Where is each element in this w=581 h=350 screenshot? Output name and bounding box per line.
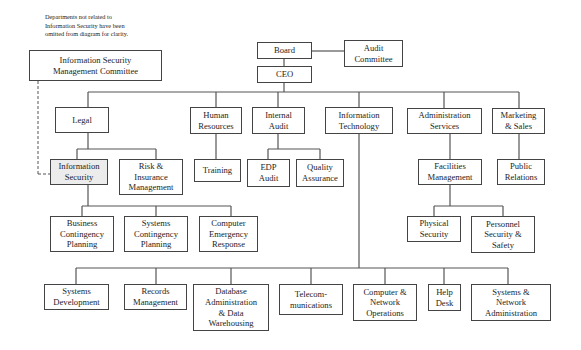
note-line: Departments not related to — [45, 13, 215, 22]
node-administration-services[interactable]: Administration Services — [407, 108, 482, 134]
node-label: Planning — [67, 239, 98, 250]
node-label: Response — [212, 239, 245, 250]
node-database-administration[interactable]: Database Administration & Data Warehousi… — [193, 284, 269, 331]
node-audit-committee[interactable]: Audit Committee — [344, 40, 403, 67]
node-label: Services — [430, 121, 459, 132]
node-quality-assurance[interactable]: Quality Assurance — [296, 159, 344, 187]
node-label: Information — [338, 110, 379, 121]
node-label: Quality — [307, 162, 333, 173]
node-label: Telecom- — [295, 289, 327, 300]
node-label: Management — [428, 172, 473, 183]
node-label: Personnel — [486, 219, 520, 230]
node-facilities-management[interactable]: Facilities Management — [418, 159, 482, 185]
node-label: Human — [203, 110, 228, 121]
note-line: omitted from diagram for clarity. — [45, 30, 215, 39]
node-human-resources[interactable]: Human Resources — [190, 107, 242, 134]
node-internal-audit[interactable]: Internal Audit — [252, 107, 305, 134]
node-label: Contingency — [134, 229, 178, 240]
node-label: Administration — [418, 110, 470, 121]
node-label: Network — [496, 297, 526, 308]
node-label: Audit — [364, 43, 384, 54]
node-label: CEO — [276, 69, 293, 80]
node-label: Resources — [198, 121, 233, 132]
node-label: Marketing — [501, 110, 537, 121]
node-edp-audit[interactable]: EDP Audit — [247, 159, 290, 187]
node-label: Contingency — [60, 229, 104, 240]
node-systems-development[interactable]: Systems Development — [44, 284, 109, 310]
node-label: Emergency — [209, 229, 248, 240]
node-help-desk[interactable]: Help Desk — [428, 284, 461, 311]
node-label: Physical — [419, 218, 448, 229]
node-label: Public — [510, 161, 532, 172]
node-records-management[interactable]: Records Management — [124, 284, 187, 310]
node-label: Management — [129, 182, 174, 193]
node-label: Operations — [366, 308, 404, 319]
node-label: Audit — [259, 173, 279, 184]
node-label: Administration — [485, 308, 537, 319]
node-label: Risk & — [139, 161, 164, 172]
node-systems-network-administration[interactable]: Systems & Network Administration — [471, 284, 551, 321]
node-label: Management Committee — [53, 66, 138, 77]
node-label: & Sales — [505, 121, 532, 132]
node-label: Management — [133, 297, 178, 308]
node-label: Security — [65, 172, 94, 183]
node-label: Board — [274, 45, 295, 56]
node-systems-contingency-planning[interactable]: Systems Contingency Planning — [124, 216, 188, 252]
node-label: Planning — [141, 239, 172, 250]
node-label: Network — [370, 297, 400, 308]
node-label: Systems — [142, 218, 171, 229]
node-label: Safety — [492, 240, 514, 251]
node-personnel-security-safety[interactable]: Personnel Security & Safety — [471, 216, 535, 253]
node-label: Committee — [354, 54, 392, 65]
node-label: Assurance — [302, 173, 338, 184]
node-label: Training — [203, 165, 232, 176]
node-label: Desk — [436, 298, 454, 309]
node-label: Business — [67, 218, 98, 229]
node-telecommunications[interactable]: Telecom- munications — [279, 284, 343, 315]
node-legal[interactable]: Legal — [55, 107, 109, 133]
node-label: Security — [420, 229, 449, 240]
node-label: Computer & — [363, 287, 406, 298]
node-label: EDP — [260, 162, 276, 173]
node-training[interactable]: Training — [194, 159, 241, 182]
node-label: Information — [58, 161, 99, 172]
diagram-note: Departments not related to Information S… — [45, 13, 215, 39]
node-label: Warehousing — [208, 318, 253, 329]
node-risk-insurance[interactable]: Risk & Insurance Management — [119, 159, 183, 195]
node-label: Technology — [339, 121, 379, 132]
node-information-security[interactable]: Information Security — [50, 159, 108, 185]
node-computer-emergency-response[interactable]: Computer Emergency Response — [199, 216, 258, 252]
node-label: Insurance — [134, 172, 167, 183]
node-label: & Data — [218, 308, 243, 319]
node-information-technology[interactable]: Information Technology — [325, 107, 393, 134]
node-label: Development — [53, 297, 99, 308]
node-ismc[interactable]: Information Security Management Committe… — [29, 50, 162, 81]
node-business-contingency-planning[interactable]: Business Contingency Planning — [50, 216, 114, 252]
node-label: Database — [215, 286, 247, 297]
node-physical-security[interactable]: Physical Security — [407, 216, 461, 242]
node-label: Internal — [265, 110, 292, 121]
node-label: Relations — [505, 172, 537, 183]
node-board[interactable]: Board — [257, 42, 312, 59]
node-label: Audit — [269, 121, 289, 132]
node-label: munications — [290, 300, 332, 311]
node-label: Systems & — [492, 287, 529, 298]
node-label: Information Security — [60, 55, 132, 66]
node-label: Facilities — [434, 161, 466, 172]
node-ceo[interactable]: CEO — [257, 66, 312, 83]
node-computer-network-operations[interactable]: Computer & Network Operations — [353, 284, 417, 321]
node-label: Help — [436, 287, 453, 298]
node-marketing-sales[interactable]: Marketing & Sales — [492, 108, 545, 134]
node-public-relations[interactable]: Public Relations — [497, 159, 545, 185]
node-label: Computer — [211, 218, 245, 229]
node-label: Administration — [205, 297, 257, 308]
node-label: Security & — [484, 229, 521, 240]
node-label: Legal — [72, 115, 92, 126]
note-line: Information Security have been — [45, 22, 215, 31]
node-label: Systems — [62, 286, 91, 297]
node-label: Records — [141, 286, 169, 297]
